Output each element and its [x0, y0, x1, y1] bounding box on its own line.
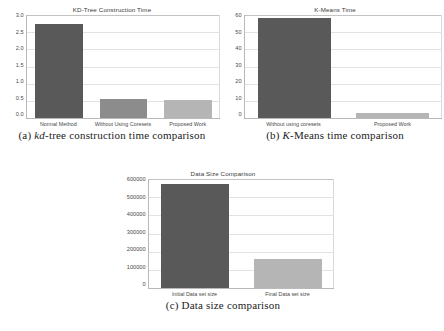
- chart-c-x-axis: Initial Data set sizeFinal Data set size: [148, 291, 334, 298]
- caption-symbol: K: [283, 129, 291, 141]
- bar-series: [27, 15, 220, 118]
- figure-a-caption: (a) kd-tree construction time comparison: [4, 129, 220, 141]
- figure-b-caption: (b) K-Means time comparison: [228, 129, 442, 141]
- caption-prefix: (b): [266, 129, 282, 141]
- x-tick-label: Normal Method: [26, 121, 91, 128]
- caption-text: Data size comparison: [182, 299, 281, 311]
- figure-c: Data Size Comparison 6000005000004000003…: [112, 170, 334, 311]
- chart-a-plot: [26, 15, 220, 119]
- figure-page: KD-Tree Construction Time 3.02.52.01.51.…: [0, 0, 444, 331]
- bar-slot: [156, 15, 220, 118]
- bar: [164, 100, 212, 118]
- caption-text: -Means time comparison: [290, 129, 404, 141]
- y-tick-label: 600000: [127, 177, 146, 182]
- bar: [100, 99, 148, 118]
- chart-b-y-axis: 6050403020100: [228, 15, 244, 119]
- y-tick-label: 2.0: [16, 46, 24, 51]
- bar: [35, 24, 83, 118]
- chart-c-plot-area: 6000005000004000003000002000001000000: [112, 179, 334, 289]
- chart-b-plot: [244, 15, 442, 119]
- chart-c-y-axis: 6000005000004000003000002000001000000: [112, 179, 148, 289]
- x-tick-label: Proposed Work: [155, 121, 220, 128]
- y-tick-label: 10: [235, 95, 241, 100]
- caption-symbol: kd: [34, 129, 45, 141]
- bar-slot: [242, 179, 335, 288]
- bar: [254, 259, 322, 288]
- y-tick-label: 50: [235, 29, 241, 34]
- x-tick-label: Proposed Work: [343, 121, 442, 128]
- bar-slot: [27, 15, 91, 118]
- bar-slot: [91, 15, 155, 118]
- caption-text: -tree construction time comparison: [45, 129, 205, 141]
- bar-slot: [245, 15, 344, 118]
- bar-slot: [149, 179, 242, 288]
- y-tick-label: 1.5: [16, 62, 24, 67]
- y-tick-label: 0.0: [16, 112, 24, 117]
- figure-c-caption: (c) Data size comparison: [112, 299, 334, 311]
- chart-a-x-axis: Normal MethodWithout Using CoresetsPropo…: [26, 121, 220, 128]
- y-tick-label: 1.0: [16, 79, 24, 84]
- bar: [258, 18, 331, 118]
- bar: [161, 184, 229, 288]
- y-tick-label: 300000: [127, 229, 146, 234]
- y-tick-label: 0.5: [16, 95, 24, 100]
- y-tick-label: 3.0: [16, 13, 24, 18]
- bar-slot: [344, 15, 443, 118]
- bar-series: [245, 15, 442, 118]
- chart-a-y-axis: 3.02.52.01.51.00.50.0: [4, 15, 26, 119]
- bar: [356, 113, 429, 118]
- x-tick-label: Without Using Coresets: [91, 121, 156, 128]
- x-tick-label: Final Data set size: [241, 291, 334, 298]
- caption-prefix: (c): [166, 299, 182, 311]
- y-tick-label: 100000: [127, 264, 146, 269]
- y-tick-label: 0: [142, 282, 145, 287]
- figure-a: KD-Tree Construction Time 3.02.52.01.51.…: [4, 6, 220, 141]
- y-tick-label: 30: [235, 62, 241, 67]
- chart-a-plot-area: 3.02.52.01.51.00.50.0: [4, 15, 220, 119]
- chart-a-title: KD-Tree Construction Time: [4, 6, 220, 13]
- y-tick-label: 60: [235, 13, 241, 18]
- caption-prefix: (a): [18, 129, 34, 141]
- y-tick-label: 500000: [127, 194, 146, 199]
- x-tick-label: Without using coresets: [244, 121, 343, 128]
- chart-b-plot-area: 6050403020100: [228, 15, 442, 119]
- y-tick-label: 20: [235, 79, 241, 84]
- bar-series: [149, 179, 334, 288]
- chart-c-plot: [148, 179, 334, 289]
- y-tick-label: 40: [235, 46, 241, 51]
- figure-b: K-Means Time 6050403020100 Without using…: [228, 6, 442, 141]
- y-tick-label: 0: [238, 112, 241, 117]
- chart-b-title: K-Means Time: [228, 6, 442, 13]
- y-tick-label: 200000: [127, 247, 146, 252]
- y-tick-label: 2.5: [16, 29, 24, 34]
- chart-b-x-axis: Without using coresetsProposed Work: [244, 121, 442, 128]
- x-tick-label: Initial Data set size: [148, 291, 241, 298]
- y-tick-label: 400000: [127, 212, 146, 217]
